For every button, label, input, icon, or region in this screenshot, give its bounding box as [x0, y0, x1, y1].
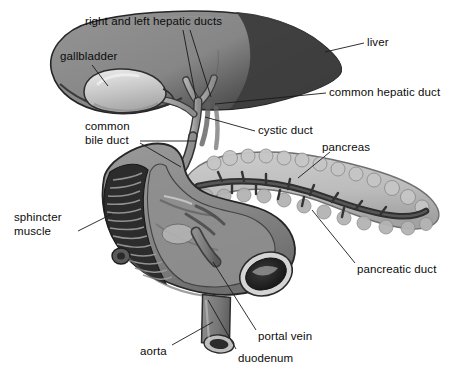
anatomy-illustration: [0, 0, 456, 376]
leader-liver: [325, 43, 364, 52]
anatomy-figure: right and left hepatic ductsgallbladderl…: [0, 0, 456, 376]
aorta-shape: [198, 294, 235, 354]
leader-cystic-duct: [205, 117, 255, 131]
